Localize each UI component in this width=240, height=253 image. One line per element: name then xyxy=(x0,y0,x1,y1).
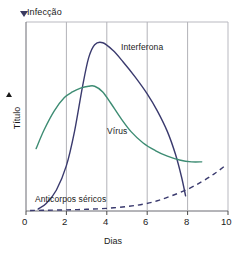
series-label-interferona: Interferona xyxy=(121,42,163,52)
x-axis-ticks xyxy=(26,211,228,215)
x-tick-label-4: 4 xyxy=(103,216,108,227)
x-tick-label-10: 10 xyxy=(221,216,232,227)
x-tick-label-2: 2 xyxy=(62,216,67,227)
series-label-virus: Vírus xyxy=(107,126,127,136)
y-axis-label-text: Título xyxy=(12,107,22,130)
x-tick-label-6: 6 xyxy=(143,216,148,227)
series-line-virus xyxy=(36,86,202,162)
infection-annotation-label: Infecção xyxy=(27,7,62,17)
chart-figure: Infecção Título 0 2 4 6 8 10 Dias Interf… xyxy=(0,0,240,253)
x-tick-label-0: 0 xyxy=(22,216,27,227)
x-tick-label-8: 8 xyxy=(184,216,189,227)
series-label-anticorpos-sericos: Anticorpos séricos xyxy=(35,194,106,204)
y-axis-label: Título xyxy=(6,88,22,148)
x-axis-label: Dias xyxy=(104,236,122,246)
